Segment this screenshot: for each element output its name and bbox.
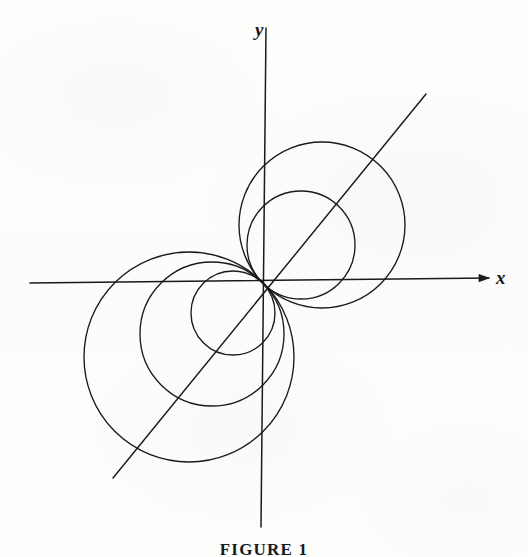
polar-circle-family-plot: [0, 0, 528, 557]
x-axis-label: x: [496, 268, 506, 287]
figure-caption: FIGURE 1: [0, 541, 528, 557]
y-axis: [261, 28, 266, 527]
y-axis-label: y: [255, 20, 263, 39]
figure-page: y x FIGURE 1: [0, 0, 528, 557]
x-axis-arrowhead: [479, 275, 489, 282]
circle-family: [84, 142, 405, 462]
